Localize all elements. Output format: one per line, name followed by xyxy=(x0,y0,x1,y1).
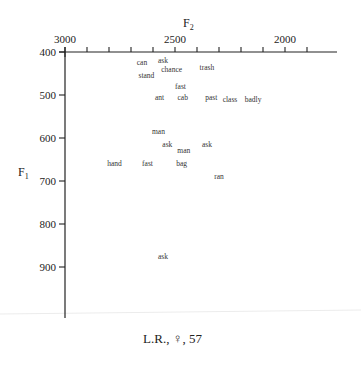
word-point-past: past xyxy=(205,93,218,102)
word-point-man: man xyxy=(152,127,165,136)
formant-chart: 300025002000 400500600700800900 F2 F1 ca… xyxy=(0,0,361,365)
f1-axis-title: F1 xyxy=(18,165,29,181)
word-point-bag: bag xyxy=(176,159,187,168)
word-point-class: class xyxy=(223,95,238,104)
word-point-badly: badly xyxy=(245,95,262,104)
word-point-ask: ask xyxy=(202,140,212,149)
word-point-trash: trash xyxy=(200,63,215,72)
word-point-cab: cab xyxy=(177,93,188,102)
f1-tick-label: 500 xyxy=(40,89,57,101)
word-points: canaskchancestandtrashfastantcabpastclas… xyxy=(107,56,261,261)
f2-tick-label: 3000 xyxy=(54,33,77,45)
word-point-ran: ran xyxy=(214,172,224,181)
word-point-ant: ant xyxy=(155,93,165,102)
f1-tick-label: 400 xyxy=(40,46,57,58)
f2-axis-title: F2 xyxy=(183,16,194,32)
word-point-hand: hand xyxy=(107,159,122,168)
f2-tick-label: 2000 xyxy=(274,33,297,45)
f1-axis: 400500600700800900 xyxy=(40,46,66,318)
f1-tick-label: 800 xyxy=(40,218,57,230)
word-point-ask: ask xyxy=(158,252,168,261)
f2-tick-label: 2500 xyxy=(164,33,187,45)
word-point-man: man xyxy=(177,146,190,155)
word-point-ask: ask xyxy=(162,140,172,149)
speaker-caption: L.R., ♀, 57 xyxy=(0,331,345,347)
f1-tick-label: 900 xyxy=(40,261,57,273)
word-point-chance: chance xyxy=(161,65,182,74)
word-point-can: can xyxy=(137,58,148,67)
word-point-fast: fast xyxy=(142,159,154,168)
f2-axis: 300025002000 xyxy=(54,33,337,57)
word-point-stand: stand xyxy=(138,71,154,80)
f1-tick-label: 600 xyxy=(40,132,57,144)
scan-artifact-line xyxy=(0,310,361,314)
f1-tick-label: 700 xyxy=(40,175,57,187)
word-point-fast: fast xyxy=(175,82,187,91)
